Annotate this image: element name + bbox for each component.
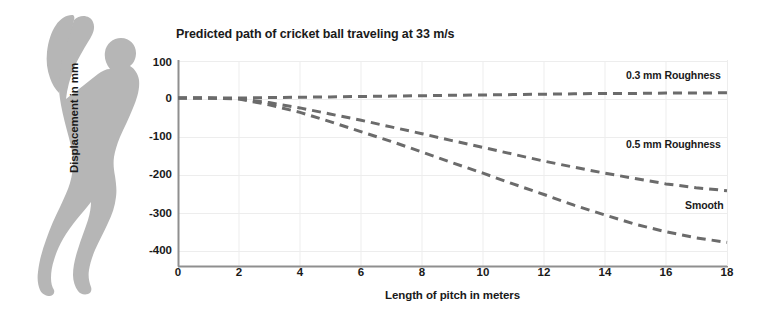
x-tick-label: 10 [463,266,503,278]
x-tick-label: 0 [158,266,198,278]
x-tick-label: 8 [402,266,442,278]
series-line-0.3mm-roughness [178,93,727,98]
x-tick-label: 14 [585,266,625,278]
x-tick-label: 2 [219,266,259,278]
x-tick-label: 4 [280,266,320,278]
series-line-smooth [178,98,727,242]
horizontal-gridlines [178,62,727,252]
series-label-smooth: Smooth [685,199,723,211]
vertical-gridlines [239,61,666,266]
series-label-0.3mm-roughness: 0.3 mm Roughness [626,69,721,81]
series-label-0.5mm-roughness: 0.5 mm Roughness [626,138,721,150]
x-tick-label: 16 [646,266,686,278]
x-axis-label: Length of pitch in meters [178,289,727,301]
x-axis-ticks: 0 2 4 6 8 10 12 14 16 18 [0,266,769,286]
x-tick-label: 6 [341,266,381,278]
x-tick-label: 18 [707,266,747,278]
x-tick-label: 12 [524,266,564,278]
cricket-ball-swing-chart-figure: Predicted path of cricket ball traveling… [0,0,769,319]
